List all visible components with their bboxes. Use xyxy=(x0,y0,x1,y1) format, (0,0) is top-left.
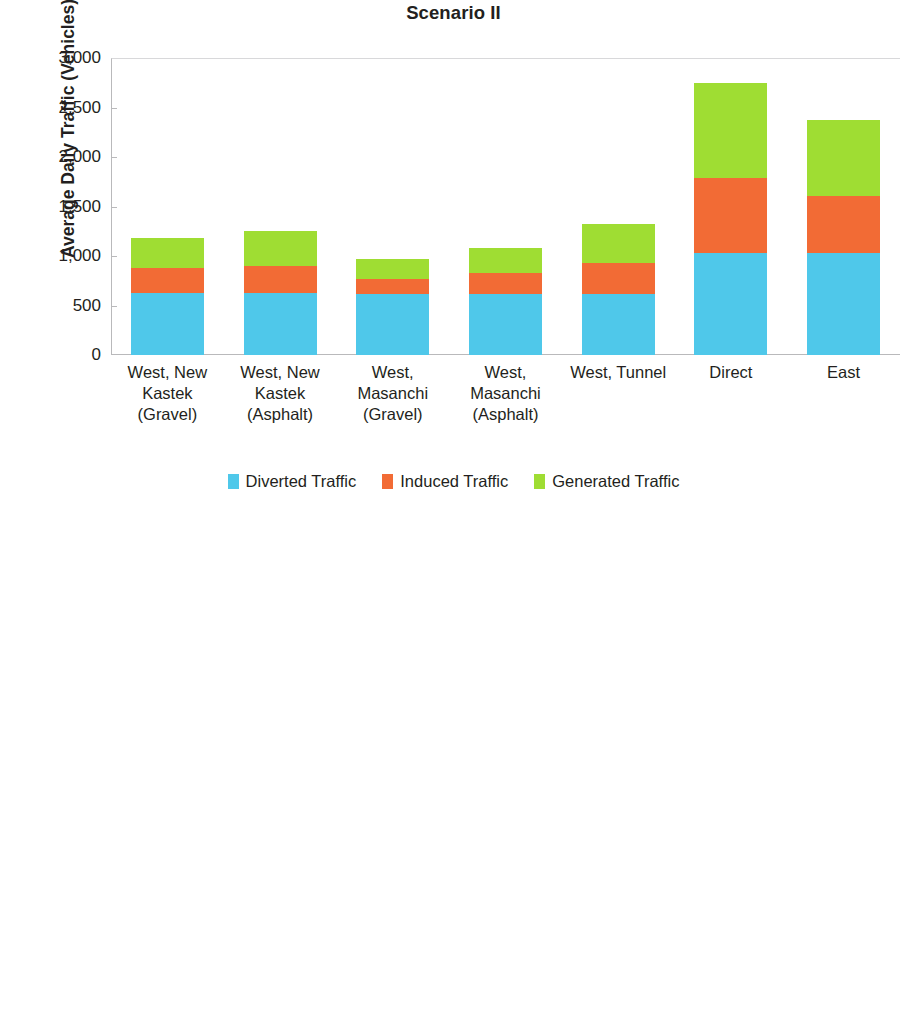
legend-label: Generated Traffic xyxy=(552,472,679,491)
plot-area-scenario-2: 05001,0001,5002,0002,5003,000 West, NewK… xyxy=(0,0,907,420)
legend-item[interactable]: Diverted Traffic xyxy=(228,472,357,491)
bar-segment xyxy=(807,253,880,355)
x-axis-label: West, NewKastek(Gravel) xyxy=(111,362,224,425)
bar-segment xyxy=(469,248,542,273)
y-tick-label: 2,000 xyxy=(0,147,101,167)
x-axis-label-line: West, Tunnel xyxy=(562,362,675,383)
x-axis-label-line: West, New xyxy=(111,362,224,383)
bar-segment xyxy=(131,268,204,293)
bar-segment xyxy=(694,83,767,178)
y-tick-mark xyxy=(111,306,117,307)
y-tick-label: 500 xyxy=(0,296,101,316)
x-axis-label: East xyxy=(787,362,900,383)
x-axis-label-line: Direct xyxy=(675,362,788,383)
x-axis-label-line: (Asphalt) xyxy=(449,404,562,425)
bar-segment xyxy=(131,293,204,355)
bar-segment xyxy=(244,231,317,266)
y-tick-label: 0 xyxy=(0,345,101,365)
bar-stack xyxy=(356,259,429,355)
bar-segment xyxy=(356,279,429,294)
bar-segment xyxy=(469,273,542,294)
legend-swatch-icon xyxy=(382,474,393,489)
x-axis-label-line: West, New xyxy=(224,362,337,383)
legend-swatch-icon xyxy=(534,474,545,489)
x-axis-label-line: (Gravel) xyxy=(336,404,449,425)
bar-segment xyxy=(694,178,767,253)
bar-segment xyxy=(582,224,655,263)
bar-segment xyxy=(582,294,655,355)
legend-item[interactable]: Generated Traffic xyxy=(534,472,679,491)
bar-segment xyxy=(356,259,429,279)
legend-label: Diverted Traffic xyxy=(246,472,357,491)
y-tick-mark xyxy=(111,256,117,257)
x-axis-label-line: (Asphalt) xyxy=(224,404,337,425)
chart-panel-scenario-2: Scenario II Average Daily Traffic (Vehic… xyxy=(0,0,907,518)
x-axis-label-line: Kastek xyxy=(111,383,224,404)
bar-segment xyxy=(356,294,429,355)
bar-stack xyxy=(694,83,767,355)
y-tick-mark xyxy=(111,108,117,109)
bar-segment xyxy=(244,266,317,293)
bar-segment xyxy=(807,120,880,195)
x-axis-label: West, NewKastek(Asphalt) xyxy=(224,362,337,425)
x-axis-label-line: Masanchi xyxy=(336,383,449,404)
bar-stack xyxy=(469,248,542,355)
figure-page: Scenario II Average Daily Traffic (Vehic… xyxy=(0,0,907,1036)
bar-stack xyxy=(244,231,317,355)
legend-swatch-icon xyxy=(228,474,239,489)
bar-segment xyxy=(131,238,204,268)
legend-label: Induced Traffic xyxy=(400,472,508,491)
y-tick-label: 3,000 xyxy=(0,48,101,68)
bar-stack xyxy=(131,238,204,355)
x-axis-label-line: Kastek xyxy=(224,383,337,404)
bar-segment xyxy=(582,263,655,294)
bar-segment xyxy=(244,293,317,355)
bar-stack xyxy=(582,224,655,355)
legend-item[interactable]: Induced Traffic xyxy=(382,472,508,491)
x-axis-label-line: Masanchi xyxy=(449,383,562,404)
chart-legend: Diverted TrafficInduced TrafficGenerated… xyxy=(0,472,907,491)
chart-panel-scenario-3: Scenario III Average Daily Traffic (Vehi… xyxy=(0,518,907,1036)
x-axis-label-line: West, xyxy=(336,362,449,383)
y-tick-label: 1,500 xyxy=(0,197,101,217)
x-axis-label: Direct xyxy=(675,362,788,383)
x-axis-label: West,Masanchi(Gravel) xyxy=(336,362,449,425)
x-axis-label-line: (Gravel) xyxy=(111,404,224,425)
y-tick-mark xyxy=(111,207,117,208)
y-tick-label: 1,000 xyxy=(0,246,101,266)
x-axis-label: West, Tunnel xyxy=(562,362,675,383)
y-tick-mark xyxy=(111,157,117,158)
x-axis-label-line: East xyxy=(787,362,900,383)
x-axis-label-line: West, xyxy=(449,362,562,383)
bar-segment xyxy=(807,196,880,253)
bar-segment xyxy=(694,253,767,355)
y-tick-label: 2,500 xyxy=(0,98,101,118)
bar-segment xyxy=(469,294,542,355)
x-axis-label: West,Masanchi(Asphalt) xyxy=(449,362,562,425)
bar-stack xyxy=(807,120,880,355)
